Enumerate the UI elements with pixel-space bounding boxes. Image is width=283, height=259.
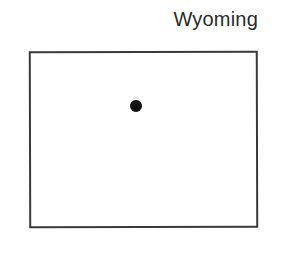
location-dot-icon [130,100,142,112]
state-name-label: Wyoming [173,8,258,31]
state-outline [29,51,258,229]
